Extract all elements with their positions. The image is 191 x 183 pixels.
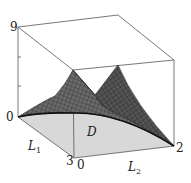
l2-axis-label: L 2 xyxy=(127,160,141,176)
z-min-label: 0 xyxy=(6,110,14,124)
z-max-label: 9 xyxy=(10,20,18,34)
l1-axis-label: L 1 xyxy=(27,139,41,155)
svg-text:1: 1 xyxy=(36,146,41,155)
l2-start-label: 0 xyxy=(77,158,85,172)
l2-end-label: 2 xyxy=(176,141,184,155)
surface-plot: 9 0 3 0 2 D L 1 L 2 xyxy=(0,0,191,183)
svg-text:L: L xyxy=(27,139,36,153)
svg-text:2: 2 xyxy=(136,167,141,176)
domain-label: D xyxy=(86,125,97,139)
svg-text:L: L xyxy=(127,160,136,174)
l1-end-label: 3 xyxy=(66,154,74,168)
